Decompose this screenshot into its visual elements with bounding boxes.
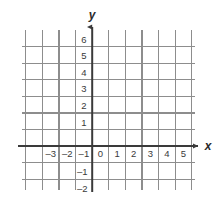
x-tick-label: –3 xyxy=(45,148,56,159)
x-axis-label: x xyxy=(204,139,213,153)
y-tick-label: 2 xyxy=(81,100,86,111)
y-tick-label: 1 xyxy=(81,117,86,128)
coordinate-grid-figure: x y –3 –2 –1 0 1 2 3 4 5 6 5 4 3 2 1 –1 … xyxy=(0,0,221,198)
plot-svg: x y –3 –2 –1 0 1 2 3 4 5 6 5 4 3 2 1 –1 … xyxy=(0,0,221,198)
y-axis-label: y xyxy=(88,8,97,22)
y-tick-label: 6 xyxy=(81,34,86,45)
y-tick-label: –2 xyxy=(77,183,88,194)
x-tick-label: 3 xyxy=(148,148,153,159)
x-tick-label: 2 xyxy=(131,148,136,159)
x-tick-label: 4 xyxy=(164,148,169,159)
x-tick-label: –1 xyxy=(79,148,90,159)
y-tick-label: 4 xyxy=(81,67,86,78)
x-tick-label: –2 xyxy=(62,148,73,159)
x-tick-label-origin: 0 xyxy=(98,148,103,159)
y-tick-label: –1 xyxy=(77,166,88,177)
figure-background xyxy=(0,0,221,198)
y-tick-label: 5 xyxy=(81,50,86,61)
x-tick-label: 5 xyxy=(181,148,186,159)
y-tick-label: 3 xyxy=(81,83,86,94)
x-tick-label: 1 xyxy=(114,148,119,159)
x-tick-labels: –3 –2 –1 0 1 2 3 4 5 xyxy=(45,148,186,159)
